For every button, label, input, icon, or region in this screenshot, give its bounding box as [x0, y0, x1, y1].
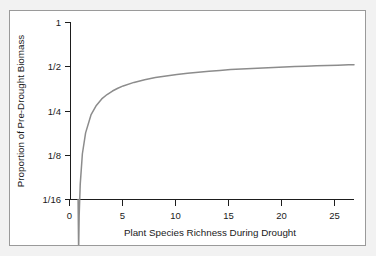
- x-tick-label: 0: [67, 210, 72, 221]
- y-tick-label: 1/4: [48, 106, 61, 117]
- chart-svg: 1 1/2 1/4 1/8 1/16 0 5 10 15 2: [10, 11, 365, 245]
- x-tick-label: 15: [223, 210, 234, 221]
- y-tick-label: 1/8: [48, 150, 61, 161]
- x-tick-label: 5: [120, 210, 125, 221]
- chart-panel: 1 1/2 1/4 1/8 1/16 0 5 10 15 2: [9, 10, 366, 246]
- x-axis-title: Plant Species Richness During Drought: [124, 227, 296, 238]
- y-tick-labels: 1 1/2 1/4 1/8 1/16: [43, 17, 62, 205]
- x-tick-label: 10: [170, 210, 181, 221]
- figure-root: 1 1/2 1/4 1/8 1/16 0 5 10 15 2: [0, 0, 376, 256]
- y-tick-label: 1/16: [43, 194, 62, 205]
- y-axis-title: Proportion of Pre-Drought Biomass: [15, 35, 26, 188]
- x-tick-label: 25: [329, 210, 340, 221]
- y-tick-label: 1: [56, 17, 61, 28]
- x-tick-labels: 0 5 10 15 20 25: [67, 210, 340, 221]
- x-tick-label: 20: [276, 210, 287, 221]
- x-tick-marks: [70, 200, 335, 206]
- y-tick-label: 1/2: [48, 61, 61, 72]
